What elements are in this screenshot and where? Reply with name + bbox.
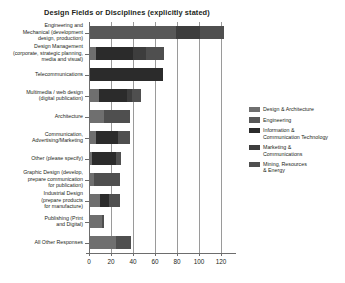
legend-label: Design & Architecture (263, 106, 314, 112)
x-axis-tick (133, 253, 134, 256)
legend-item[interactable]: Marketing & Communications (249, 144, 328, 156)
bar-segment[interactable] (90, 26, 176, 39)
chart-title: Design Fields or Disciplines (explicitly… (44, 8, 210, 17)
bar-segment[interactable] (96, 47, 133, 60)
bar-segment[interactable] (90, 89, 99, 102)
category-tick (85, 54, 89, 55)
bar-segment[interactable] (90, 236, 116, 249)
category-tick (85, 33, 89, 34)
bar-row[interactable] (90, 110, 130, 123)
category-label: Design Management (corporate, strategic … (13, 43, 83, 62)
category-tick (85, 117, 89, 118)
chart-container: Design Fields or Disciplines (explicitly… (0, 0, 345, 283)
legend-item[interactable]: Information & Communication Technology (249, 127, 328, 139)
legend-label: Mining, Resources & Energy (263, 161, 307, 173)
category-label: Multimedia / web design (digital publica… (26, 89, 83, 102)
legend-swatch (249, 117, 260, 123)
x-axis-tick-label: 80 (173, 258, 180, 265)
bar-segment[interactable] (109, 194, 120, 207)
bar-row[interactable] (90, 68, 163, 81)
legend-item[interactable]: Engineering (249, 117, 328, 123)
bar-segment[interactable] (146, 47, 164, 60)
category-tick (85, 138, 89, 139)
category-label: Telecommunications (35, 71, 83, 77)
legend-swatch (249, 145, 260, 151)
category-tick (85, 180, 89, 181)
bar-row[interactable] (90, 89, 141, 102)
legend: Design & ArchitectureEngineeringInformat… (249, 106, 328, 178)
x-axis-tick-label: 40 (129, 258, 136, 265)
bar-segment[interactable] (104, 110, 129, 123)
x-axis-tick (155, 253, 156, 256)
category-tick (85, 201, 89, 202)
bar-row[interactable] (90, 152, 121, 165)
bar-segment[interactable] (116, 152, 120, 165)
bar-segment[interactable] (99, 89, 128, 102)
bar-row[interactable] (90, 236, 131, 249)
x-axis-tick (199, 253, 200, 256)
bar-row[interactable] (90, 131, 130, 144)
legend-item[interactable]: Mining, Resources & Energy (249, 161, 328, 173)
bar-row[interactable] (90, 215, 104, 228)
bar-segment[interactable] (200, 26, 224, 39)
legend-label: Information & Communication Technology (263, 127, 328, 139)
category-label: Communication, Advertising/Marketing (32, 131, 83, 144)
category-tick (85, 159, 89, 160)
x-axis-tick (177, 253, 178, 256)
bar-segment[interactable] (133, 47, 146, 60)
legend-item[interactable]: Design & Architecture (249, 106, 328, 112)
category-tick (85, 75, 89, 76)
bar-segment[interactable] (118, 131, 130, 144)
bar-row[interactable] (90, 194, 120, 207)
bar-row[interactable] (90, 26, 224, 39)
bar-row[interactable] (90, 173, 120, 186)
x-axis-tick (111, 253, 112, 256)
x-axis-tick (89, 253, 90, 256)
category-label: Publishing (Print and Digital) (44, 215, 83, 228)
legend-swatch (249, 162, 260, 168)
category-label: Graphic Design (develop, prepare communi… (23, 169, 83, 188)
bar-segment[interactable] (94, 173, 119, 186)
bar-segment[interactable] (176, 26, 200, 39)
x-axis-tick-label: 20 (107, 258, 114, 265)
bar-segment[interactable] (116, 236, 130, 249)
plot-area (89, 22, 232, 253)
x-axis-tick (221, 253, 222, 256)
category-tick (85, 222, 89, 223)
grid-line (221, 22, 222, 253)
category-tick (85, 96, 89, 97)
category-label: Architecture (55, 113, 83, 119)
bar-segment[interactable] (90, 215, 102, 228)
bar-segment[interactable] (132, 89, 141, 102)
category-tick (85, 243, 89, 244)
bar-segment[interactable] (90, 110, 104, 123)
bar-segment[interactable] (90, 68, 163, 81)
x-axis-tick-label: 120 (216, 258, 227, 265)
bar-segment[interactable] (102, 215, 104, 228)
category-label: Industrial Design (prepare products for … (41, 190, 83, 209)
x-axis-tick-label: 100 (194, 258, 205, 265)
bar-segment[interactable] (92, 152, 116, 165)
legend-label: Engineering (263, 117, 291, 123)
legend-swatch (249, 128, 260, 134)
category-label: Engineering and Mechanical (development … (23, 22, 83, 41)
bar-segment[interactable] (96, 131, 118, 144)
grid-line (177, 22, 178, 253)
bar-row[interactable] (90, 47, 164, 60)
x-axis-tick-label: 0 (87, 258, 91, 265)
grid-line (199, 22, 200, 253)
x-axis-line (86, 253, 236, 254)
bar-segment[interactable] (100, 194, 109, 207)
legend-swatch (249, 107, 260, 113)
legend-label: Marketing & Communications (263, 144, 302, 156)
category-label: All Other Responses (34, 239, 83, 245)
category-label: Other (please specify) (31, 155, 83, 161)
bar-segment[interactable] (90, 194, 100, 207)
x-axis-tick-label: 60 (151, 258, 158, 265)
